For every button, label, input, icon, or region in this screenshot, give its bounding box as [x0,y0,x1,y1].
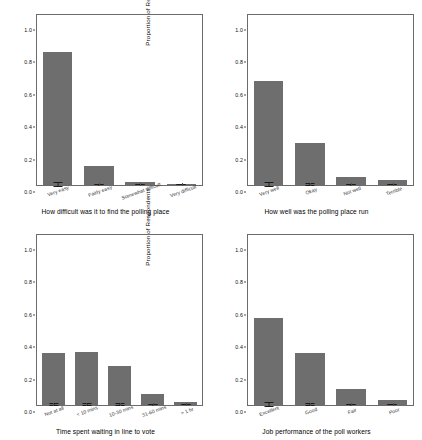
x-tick-label: 10-30 mins [108,404,134,418]
x-tick-label: Fair [347,406,357,415]
y-tick-mark [33,192,36,193]
y-tick-label: 0.6 [235,312,243,318]
bar-slot [37,235,70,405]
y-axis-ticks: 0.00.20.40.60.81.0 [232,22,246,192]
y-tick-mark [244,30,247,31]
y-tick-label: 0.0 [24,409,32,415]
x-tick-label: Terrible [385,185,403,196]
y-tick-label: 0.4 [235,124,243,130]
y-tick-mark [33,94,36,95]
bar-slot [248,15,289,185]
x-tick-label: Fairly easy [87,184,112,198]
x-tick-label: Very easy [46,184,69,197]
plot-area [247,234,414,406]
y-axis-ticks: 0.00.20.40.60.81.0 [232,242,246,412]
y-tick-label: 1.0 [235,247,243,253]
y-tick-label: 0.0 [24,189,32,195]
bar-slot [161,15,202,185]
bar-slot [331,15,372,185]
x-tick-label: 31-60 mins [141,404,167,418]
y-tick-label: 0.6 [235,92,243,98]
y-tick-mark [244,379,247,380]
x-tick-label: Very difficult [169,183,197,198]
bar[interactable] [254,318,284,405]
y-tick-mark [33,347,36,348]
bar-slot [372,235,413,405]
chart-panel-bottom-right: Proportion of Respondents0.00.20.40.60.8… [211,220,422,440]
y-tick-label: 0.8 [24,279,32,285]
y-axis-title: Proportion of Respondents [141,0,155,92]
bar-slot [372,15,413,185]
x-tick-label: Very well [258,184,279,197]
bar[interactable] [295,143,325,185]
bar-slot [169,235,202,405]
bar-slot [331,235,372,405]
plot-area [247,14,414,186]
x-axis-title: How difficult was it to find the polling… [0,208,211,215]
bar-slot [289,235,330,405]
bar[interactable] [42,353,66,405]
y-tick-mark [33,379,36,380]
bar-series [37,15,202,185]
bar[interactable] [108,366,132,405]
chart-panel-top-right: Proportion of Respondents0.00.20.40.60.8… [211,0,422,220]
y-tick-label: 1.0 [24,247,32,253]
chart-panel-bottom-left: Proportion of Respondents0.00.20.40.60.8… [0,220,211,440]
y-tick-mark [33,30,36,31]
y-tick-mark [33,127,36,128]
bar[interactable] [75,352,99,405]
y-tick-label: 1.0 [235,27,243,33]
y-tick-label: 0.8 [24,59,32,65]
y-tick-mark [244,412,247,413]
y-tick-mark [244,62,247,63]
x-axis-title: How well was the polling place run [211,208,422,215]
y-tick-mark [244,250,247,251]
y-tick-mark [33,62,36,63]
y-tick-mark [244,314,247,315]
y-tick-label: 0.2 [24,377,32,383]
y-tick-label: 0.2 [24,157,32,163]
bar-slot [103,235,136,405]
x-tick-label: < 10 mins [76,404,99,417]
y-tick-mark [244,192,247,193]
x-axis-tick-labels: Very easyFairly easySomewhat difficultVe… [36,186,203,200]
y-axis-title: Proportion of Respondents [141,142,155,312]
y-tick-label: 1.0 [24,27,32,33]
y-tick-label: 0.2 [235,157,243,163]
y-axis-ticks: 0.00.20.40.60.81.0 [21,22,35,192]
y-tick-label: 0.2 [235,377,243,383]
bar[interactable] [295,353,325,405]
bar[interactable] [254,81,284,185]
x-tick-label: Excellent [258,404,280,417]
x-axis-title: Job performance of the poll workers [211,428,422,435]
plot-area [36,234,203,406]
y-tick-mark [33,250,36,251]
y-tick-label: 0.8 [235,59,243,65]
y-tick-mark [33,282,36,283]
y-tick-label: 0.0 [235,409,243,415]
plot-area [36,14,203,186]
y-tick-mark [33,412,36,413]
y-tick-label: 0.4 [24,344,32,350]
y-tick-label: 0.4 [235,344,243,350]
bar-slot [37,15,78,185]
y-tick-mark [244,94,247,95]
bar[interactable] [43,52,73,185]
y-tick-mark [244,347,247,348]
x-tick-label: Not at all [43,405,64,418]
y-tick-label: 0.4 [24,124,32,130]
y-tick-mark [244,282,247,283]
y-tick-mark [33,314,36,315]
bar-slot [289,15,330,185]
bar-series [248,15,413,185]
y-axis-ticks: 0.00.20.40.60.81.0 [21,242,35,412]
figure-grid: Proportion of Respondents0.00.20.40.60.8… [0,0,422,440]
x-tick-label: > 1 hr [180,406,194,416]
x-axis-title: Time spent waiting in line to vote [0,428,211,435]
y-tick-label: 0.6 [24,312,32,318]
x-tick-label: Good [304,406,318,416]
y-tick-mark [244,127,247,128]
x-axis-tick-labels: Not at all< 10 mins10-30 mins31-60 mins>… [36,406,203,420]
y-tick-mark [33,159,36,160]
x-axis-tick-labels: Very wellOkayNot wellTerrible [247,186,414,200]
